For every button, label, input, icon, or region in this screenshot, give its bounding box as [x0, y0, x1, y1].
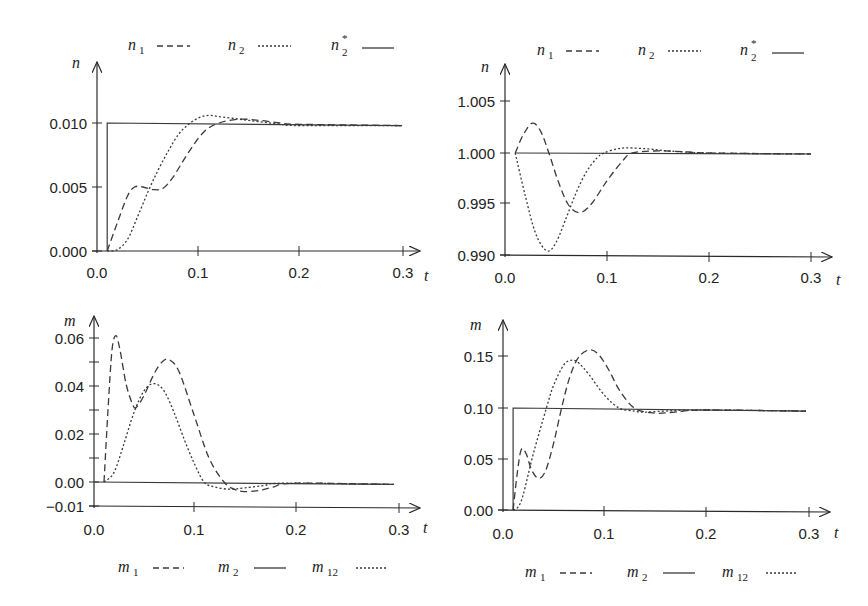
svg-text:12: 12 — [327, 566, 338, 578]
series-line-m1 — [104, 336, 394, 492]
series-line-n2 — [107, 115, 402, 251]
y-axis-label: n — [72, 54, 80, 71]
y-axis-label: m — [64, 312, 76, 329]
series-bottom-right — [513, 350, 806, 510]
legend-top-left: n 1 n 2 n 2 * — [128, 32, 394, 58]
y-ticks: 0.000 0.005 0.010 — [49, 115, 102, 260]
legend-bottom-left: m 1 m 2 m 12 — [118, 558, 388, 578]
svg-text:0.0: 0.0 — [87, 264, 108, 281]
panel-bottom-left: m t −0.01 0.00 0.02 0.04 0.06 — [46, 312, 428, 578]
legend-label-m12: m — [722, 563, 734, 580]
svg-text:0.00: 0.00 — [464, 502, 493, 519]
svg-text:0.0: 0.0 — [495, 269, 516, 286]
x-axis — [498, 510, 830, 512]
legend-label-m1: m — [118, 558, 130, 575]
svg-text:0.00: 0.00 — [55, 474, 84, 491]
x-axis-label: t — [423, 519, 428, 536]
svg-text:0.3: 0.3 — [799, 525, 820, 542]
svg-text:−0.01: −0.01 — [46, 498, 84, 515]
svg-text:1.000: 1.000 — [457, 145, 495, 162]
svg-text:0.3: 0.3 — [801, 269, 822, 286]
svg-text:0.005: 0.005 — [49, 179, 87, 196]
svg-text:0.2: 0.2 — [286, 521, 307, 538]
axes-bottom-right: m t 0.00 0.05 0.10 0.15 0.0 0.1 0.2 0.3 — [464, 316, 839, 542]
svg-text:0.15: 0.15 — [464, 348, 493, 365]
svg-text:0.3: 0.3 — [389, 521, 410, 538]
svg-text:2: 2 — [642, 571, 648, 583]
svg-text:1: 1 — [548, 49, 554, 61]
svg-text:0.0: 0.0 — [84, 521, 105, 538]
legend-label-n2-star: n — [331, 36, 339, 53]
legend-bottom-right: m 1 m 2 m 12 — [525, 563, 798, 583]
svg-text:0.2: 0.2 — [699, 269, 720, 286]
svg-text:0.2: 0.2 — [289, 264, 310, 281]
svg-text:1: 1 — [139, 44, 145, 56]
svg-text:2: 2 — [751, 51, 757, 63]
series-line-n1 — [515, 123, 811, 213]
y-ticks: −0.01 0.00 0.02 0.04 0.06 — [46, 330, 99, 515]
series-bottom-left — [94, 336, 394, 492]
series-top-left — [107, 115, 402, 251]
figure-canvas: n 1 n 2 n 2 * n t 0.000 0.005 0.010 — [0, 0, 868, 606]
legend-label-m1: m — [525, 563, 537, 580]
series-line-m2 — [513, 408, 806, 510]
svg-text:0.3: 0.3 — [393, 264, 414, 281]
y-ticks: 0.00 0.05 0.10 0.15 — [464, 348, 508, 519]
svg-text:2: 2 — [649, 49, 655, 61]
axes-top-right: n t 0.990 0.995 1.000 1.005 0.0 0.1 0.2 … — [457, 58, 841, 288]
svg-text:0.04: 0.04 — [55, 378, 84, 395]
svg-text:0.1: 0.1 — [594, 525, 615, 542]
svg-text:0.06: 0.06 — [55, 330, 84, 347]
svg-text:0.1: 0.1 — [597, 269, 618, 286]
panel-top-left: n 1 n 2 n 2 * n t 0.000 0.005 0.010 — [49, 32, 429, 284]
svg-text:0.990: 0.990 — [457, 247, 495, 264]
svg-text:1: 1 — [540, 571, 546, 583]
panel-top-right: n 1 n 2 n 2 * n t 0.990 0.995 1.000 — [457, 37, 841, 288]
svg-text:0.010: 0.010 — [49, 115, 87, 132]
legend-label-m2: m — [218, 558, 230, 575]
axes-top-left: n t 0.000 0.005 0.010 0.0 0.1 0.2 0.3 — [49, 54, 429, 284]
x-axis-label: t — [424, 267, 429, 284]
svg-text:*: * — [751, 37, 757, 49]
svg-text:0.995: 0.995 — [457, 195, 495, 212]
series-line-n2 — [515, 148, 811, 251]
svg-text:0.05: 0.05 — [464, 451, 493, 468]
series-line-m12 — [513, 360, 806, 510]
series-line-n2-star — [107, 123, 402, 251]
x-axis — [89, 506, 420, 508]
svg-text:0.2: 0.2 — [696, 525, 717, 542]
series-line-m1 — [513, 350, 806, 510]
figure: n 1 n 2 n 2 * n t 0.000 0.005 0.010 — [0, 0, 868, 606]
y-axis-label: n — [481, 58, 489, 75]
svg-text:0.000: 0.000 — [49, 243, 87, 260]
svg-text:2: 2 — [342, 46, 348, 58]
x-axis — [500, 255, 832, 257]
svg-text:1.005: 1.005 — [457, 93, 495, 110]
axes-bottom-left: m t −0.01 0.00 0.02 0.04 0.06 — [46, 312, 428, 538]
x-axis-label: t — [834, 524, 839, 541]
legend-top-right: n 1 n 2 n 2 * — [537, 37, 804, 63]
svg-text:*: * — [342, 32, 348, 44]
svg-text:0.1: 0.1 — [188, 264, 209, 281]
series-line-m12 — [104, 384, 394, 490]
svg-text:0.10: 0.10 — [464, 400, 493, 417]
svg-text:0.02: 0.02 — [55, 426, 84, 443]
y-axis-label: m — [470, 316, 482, 333]
svg-text:12: 12 — [737, 571, 748, 583]
svg-text:1: 1 — [133, 566, 139, 578]
series-line-m2 — [94, 482, 394, 484]
y-ticks: 0.990 0.995 1.000 1.005 — [457, 93, 510, 264]
svg-text:2: 2 — [233, 566, 239, 578]
svg-text:0.0: 0.0 — [493, 525, 514, 542]
svg-text:0.1: 0.1 — [184, 521, 205, 538]
panel-bottom-right: m t 0.00 0.05 0.10 0.15 0.0 0.1 0.2 0.3 — [464, 316, 839, 583]
x-axis-label: t — [836, 271, 841, 288]
series-top-right — [515, 123, 811, 251]
legend-label-m2: m — [627, 563, 639, 580]
legend-label-n1: n — [128, 36, 136, 53]
legend-label-n2: n — [638, 41, 646, 58]
legend-label-n2-star: n — [740, 41, 748, 58]
legend-label-n2: n — [228, 36, 236, 53]
legend-label-m12: m — [312, 558, 324, 575]
legend-label-n1: n — [537, 41, 545, 58]
